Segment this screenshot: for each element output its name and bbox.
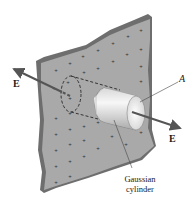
svg-text:+: +: [139, 27, 143, 33]
svg-text:+: +: [68, 158, 72, 164]
svg-text:+: +: [139, 78, 143, 84]
caption-line-1: Gaussian: [116, 174, 164, 184]
svg-text:+: +: [124, 141, 128, 147]
svg-text:+: +: [125, 51, 129, 57]
svg-text:+: +: [111, 58, 115, 64]
svg-text:+: +: [82, 153, 86, 159]
svg-text:+: +: [66, 79, 70, 85]
field-label-left: E: [13, 79, 20, 89]
svg-text:+: +: [68, 173, 72, 179]
svg-text:+: +: [68, 110, 72, 116]
svg-text:+: +: [126, 33, 130, 39]
area-label: A: [179, 74, 185, 84]
svg-text:+: +: [68, 126, 72, 132]
diagram-canvas: +++++++ +++++++ +++ ++ ++++++ +++++ +++ …: [0, 0, 196, 204]
svg-text:+: +: [96, 47, 100, 53]
svg-text:+: +: [82, 69, 86, 75]
svg-text:+: +: [54, 67, 58, 73]
svg-text:+: +: [54, 163, 58, 169]
svg-text:+: +: [96, 65, 100, 71]
svg-text:+: +: [54, 147, 58, 153]
svg-text:+: +: [54, 131, 58, 137]
svg-text:+: +: [110, 133, 114, 139]
svg-text:+: +: [111, 40, 115, 46]
svg-text:+: +: [82, 137, 86, 143]
svg-text:+: +: [139, 46, 143, 52]
svg-text:+: +: [82, 123, 86, 129]
svg-text:+: +: [81, 53, 85, 59]
svg-text:+: +: [139, 63, 143, 69]
field-label-right: E: [169, 134, 176, 144]
svg-text:+: +: [139, 129, 143, 135]
svg-text:+: +: [54, 115, 58, 121]
gaussian-cylinder-caption: Gaussian cylinder: [116, 174, 164, 194]
svg-text:+: +: [68, 141, 72, 147]
svg-text:+: +: [96, 145, 100, 151]
caption-line-2: cylinder: [116, 184, 164, 194]
svg-text:+: +: [54, 179, 58, 185]
gaussian-cylinder-diagram: +++++++ +++++++ +++ ++ ++++++ +++++ +++ …: [0, 0, 196, 204]
svg-text:+: +: [68, 60, 72, 66]
